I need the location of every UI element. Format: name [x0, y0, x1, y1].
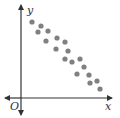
data-point: [81, 64, 86, 69]
data-point: [74, 71, 79, 76]
data-point: [45, 28, 50, 33]
data-point: [54, 35, 59, 40]
data-point: [77, 56, 82, 61]
data-point: [35, 29, 40, 34]
x-axis-label: x: [105, 100, 112, 113]
data-point: [87, 80, 92, 85]
data-point: [62, 39, 67, 44]
data-point: [65, 48, 70, 53]
data-point: [62, 56, 67, 61]
data-point: [53, 46, 58, 51]
data-point: [69, 59, 74, 64]
data-point: [29, 19, 34, 24]
scatter-plot: y x O: [0, 0, 120, 118]
data-point: [97, 86, 102, 91]
data-point: [43, 38, 48, 43]
data-points: [29, 19, 102, 91]
data-point: [86, 72, 91, 77]
y-axis-label: y: [26, 4, 34, 17]
data-point: [38, 23, 43, 28]
data-point: [94, 78, 99, 83]
origin-label: O: [10, 100, 19, 113]
